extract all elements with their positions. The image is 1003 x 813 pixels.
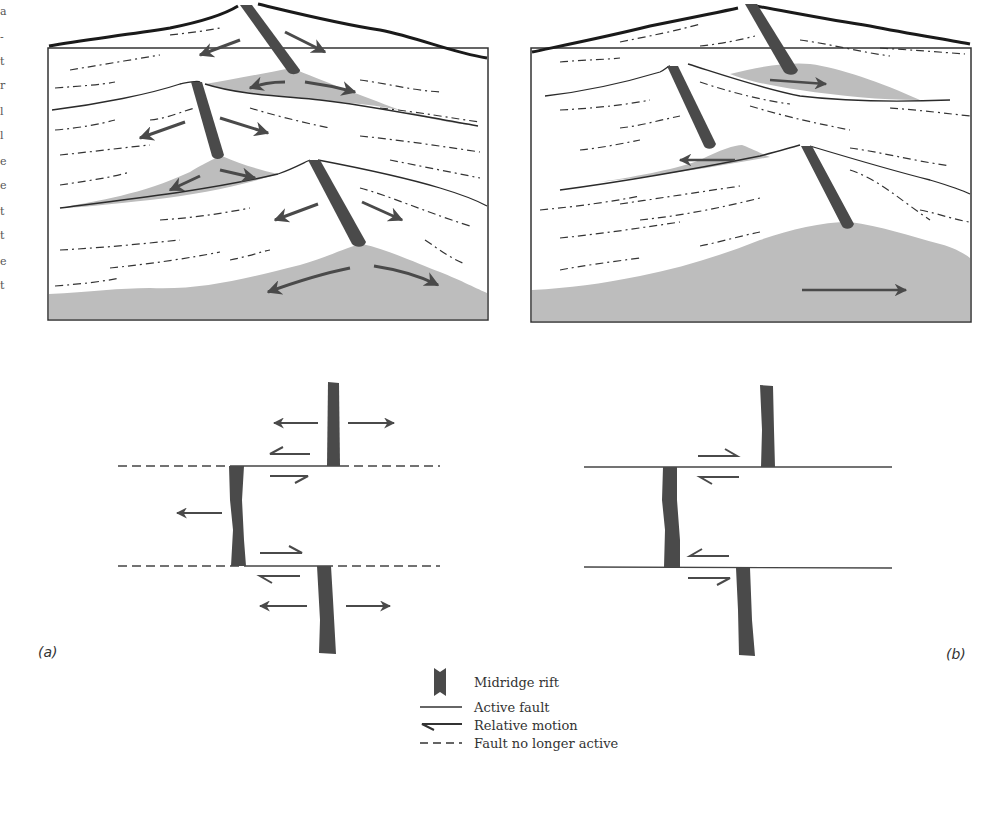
- panel-label-b: (b): [946, 646, 966, 662]
- midridge-rift: [229, 466, 246, 566]
- rift-bar-icon: [420, 668, 464, 696]
- midridge-rift: [317, 566, 336, 654]
- solid-line-icon: [420, 698, 464, 716]
- legend-item-active-fault: Active fault: [420, 698, 550, 716]
- legend-label: Midridge rift: [474, 675, 559, 690]
- relative-motion-arrows: [260, 447, 310, 583]
- block-diagram-b: [531, 4, 971, 322]
- midridge-rift: [736, 568, 755, 656]
- map-view-b: [584, 385, 892, 656]
- half-arrow-icon: [420, 716, 464, 734]
- legend-label: Fault no longer active: [474, 736, 618, 751]
- midridge-rift: [760, 385, 775, 467]
- dashed-line-icon: [420, 734, 464, 752]
- midridge-rift: [327, 382, 340, 466]
- midridge-rift: [662, 467, 680, 567]
- legend-item-fault-no-longer-active: Fault no longer active: [420, 734, 618, 752]
- legend-label: Active fault: [474, 700, 550, 715]
- block-diagram-a: [48, 4, 488, 320]
- relative-motion-arrows: [688, 449, 739, 585]
- panel-label-a: (a): [38, 644, 58, 660]
- legend-label: Relative motion: [474, 718, 578, 733]
- legend-item-midridge-rift: Midridge rift: [420, 668, 559, 696]
- active-fault: [584, 567, 892, 568]
- legend-item-relative-motion: Relative motion: [420, 716, 578, 734]
- map-view-a: [118, 382, 440, 654]
